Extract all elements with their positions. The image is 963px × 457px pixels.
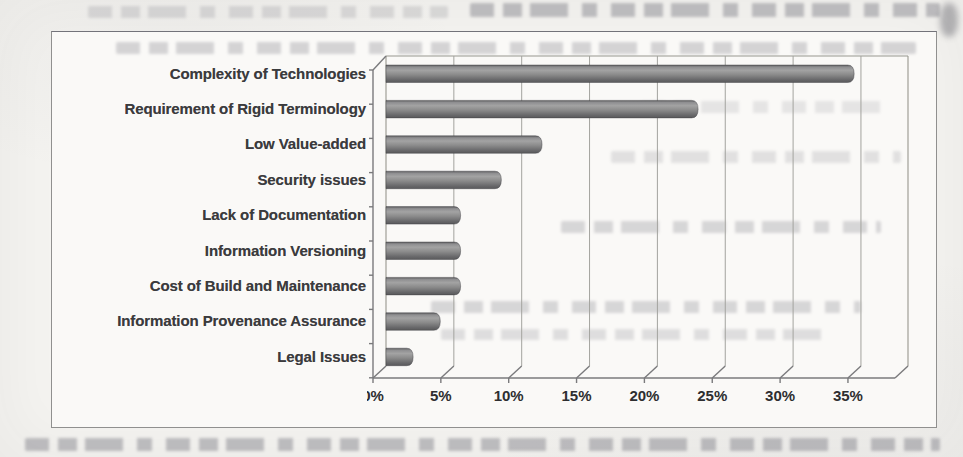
bar-chart: 0%5%10%15%20%25%30%35%	[367, 49, 933, 411]
ghost-text-line	[25, 438, 940, 451]
bar-series	[386, 65, 854, 366]
bar-6	[386, 277, 461, 295]
ghost-text-line	[470, 3, 940, 17]
category-label: Information Provenance Assurance	[52, 310, 366, 332]
category-label: Requirement of Rigid Terminology	[52, 98, 366, 120]
category-label: Complexity of Technologies	[52, 63, 366, 85]
category-axis-labels: Complexity of TechnologiesRequirement of…	[52, 32, 366, 427]
x-tick-label: 25%	[697, 387, 727, 404]
bar-8	[386, 348, 413, 366]
bar-2	[386, 136, 542, 154]
category-label: Low Value-added	[52, 133, 366, 155]
bar-3	[386, 171, 501, 189]
bar-7	[386, 313, 440, 331]
x-tick-label: 20%	[629, 387, 659, 404]
bar-0	[386, 65, 854, 83]
figure-frame: Complexity of TechnologiesRequirement of…	[51, 31, 937, 428]
category-label: Cost of Build and Maintenance	[52, 275, 366, 297]
x-tick-labels: 0%5%10%15%20%25%30%35%	[367, 387, 863, 404]
ghost-text-line	[88, 6, 448, 18]
x-tick-label: 30%	[765, 387, 795, 404]
x-tick-label: 5%	[430, 387, 452, 404]
bar-4	[386, 207, 461, 225]
category-label: Security issues	[52, 169, 366, 191]
x-tick-label: 35%	[833, 387, 863, 404]
x-tick-label: 0%	[367, 387, 384, 404]
scan-artifact	[940, 3, 958, 37]
bar-1	[386, 100, 698, 118]
category-label: Information Versioning	[52, 240, 366, 262]
category-label: Lack of Documentation	[52, 204, 366, 226]
x-tick-label: 10%	[494, 387, 524, 404]
x-tick-label: 15%	[562, 387, 592, 404]
bar-5	[386, 242, 461, 260]
category-label: Legal Issues	[52, 346, 366, 368]
scanned-page: Complexity of TechnologiesRequirement of…	[0, 0, 963, 457]
